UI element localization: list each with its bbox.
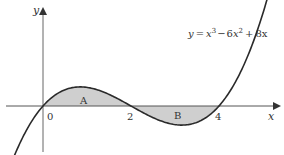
equation-label: y=x3−6x2+8x <box>187 27 268 39</box>
x-axis-label: x <box>268 110 275 123</box>
cubic-curve <box>12 0 267 155</box>
region-label-b: B <box>174 110 181 121</box>
region-label-a: A <box>79 95 88 106</box>
tick-label-2: 2 <box>127 111 133 122</box>
cubic-graph: y x 0 2 4 A B y=x3−6x2+8x <box>0 0 284 155</box>
tick-label-4: 4 <box>215 111 221 122</box>
origin-label: 0 <box>47 111 53 122</box>
y-axis-label: y <box>32 4 40 17</box>
